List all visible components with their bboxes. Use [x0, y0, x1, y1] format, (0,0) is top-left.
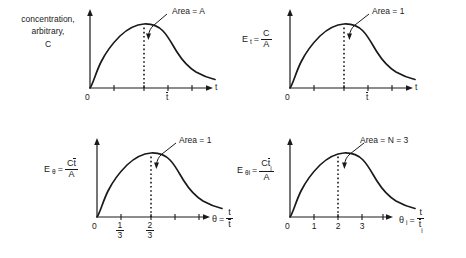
origin-label: 0 [285, 92, 290, 103]
equals-sign: = [254, 34, 259, 44]
x-axis-arrowhead [386, 214, 393, 220]
rtd-figure: concentration, arbitrary, C Area = A 0 t… [0, 0, 466, 258]
fraction-denominator: A [262, 172, 272, 182]
annotation-arrowhead [342, 162, 347, 169]
x-tick-label-2: 2 [333, 221, 343, 231]
chart-panel-etheta-i: Eθi = Cti A Area = N = 3 0 1 2 3 θi = t … [233, 129, 466, 258]
y-axis-caption-line-1: concentration, [10, 13, 86, 25]
equals-sign: = [219, 214, 224, 224]
mean-time-tick-label: t [166, 92, 168, 102]
chart-panel-etheta: Eθ = Ct A Area = 1 0 1 3 2 3 θ = t t [0, 129, 233, 258]
x-axis-label-theta-i: θi = t ti [399, 208, 425, 232]
y-axis-caption-line-2: arbitrary, [10, 25, 86, 37]
y-axis-label-etheta: Eθ = Ct A [44, 158, 78, 180]
x-axis-arrowhead [203, 214, 210, 220]
tick-denominator: 3 [116, 231, 124, 240]
chart-panel-concentration: concentration, arbitrary, C Area = A 0 t… [0, 0, 233, 129]
rtd-curve [97, 153, 222, 217]
area-annotation: Area = 1 [372, 6, 404, 16]
fraction: t ti [417, 208, 425, 232]
y-axis-symbol-subscript: θ [52, 168, 56, 175]
x-tick-label-3: 3 [357, 221, 367, 231]
chart-panel-et: Et = C A Area = 1 0 t t [233, 0, 466, 129]
x-axis-arrowhead [206, 85, 213, 91]
fraction-numerator: t [226, 208, 233, 219]
fraction-denominator: ti [417, 219, 425, 232]
panel-plot-area [233, 0, 466, 129]
y-axis-symbol-subscript: t [250, 38, 252, 45]
fraction-denominator: t [226, 219, 233, 230]
fraction: C A [261, 29, 272, 50]
y-axis-arrowhead [87, 9, 93, 16]
annotation-arrowhead [347, 33, 352, 40]
mean-time-tick-label-text: t [366, 92, 368, 102]
tick-denominator: 3 [146, 231, 154, 240]
x-axis-arrowhead [406, 85, 413, 91]
x-tick-label-1: 1 [309, 221, 319, 231]
y-axis-caption: concentration, arbitrary, C [10, 13, 86, 50]
fraction-numerator: C [261, 29, 272, 40]
y-axis-symbol: E [242, 34, 248, 44]
annotation-arrowhead [154, 162, 159, 169]
equals-sign: = [409, 215, 414, 225]
x-tick-label-two-thirds: 2 3 [146, 221, 154, 241]
area-annotation: Area = A [172, 6, 205, 16]
area-annotation: Area = 1 [179, 135, 211, 145]
fraction-denominator: A [261, 40, 271, 50]
x-axis-symbol-subscript: i [406, 219, 407, 226]
mean-time-tick-label: t [366, 92, 368, 102]
mean-time-tick-label-text: t [166, 92, 168, 102]
equals-sign: = [252, 165, 257, 175]
equals-sign: = [58, 164, 63, 174]
origin-label: 0 [285, 221, 290, 232]
fraction-numerator: Cti [259, 158, 273, 172]
fraction: t t [226, 208, 233, 230]
rtd-curve [90, 24, 215, 88]
y-axis-arrowhead [94, 138, 100, 145]
x-axis-symbol: θ [399, 215, 404, 225]
x-axis-label: t [215, 82, 217, 93]
x-axis-label-theta: θ = t t [212, 208, 233, 230]
y-axis-symbol-subscript: θi [245, 169, 250, 176]
numerator-subscript: i [270, 165, 271, 172]
annotation-arrowhead [146, 33, 151, 40]
y-axis-label-et: Et = C A [242, 29, 272, 50]
rtd-curve [290, 153, 415, 217]
y-axis-arrowhead [287, 9, 293, 16]
x-axis-label: t [415, 82, 417, 93]
y-axis-caption-line-3: C [10, 38, 86, 50]
y-axis-label-etheta-i: Eθi = Cti A [237, 158, 274, 182]
area-annotation: Area = N = 3 [360, 135, 408, 145]
fraction: Ct A [65, 158, 78, 180]
fraction-numerator: Ct [65, 158, 78, 170]
x-tick-label-one-third: 1 3 [116, 221, 124, 241]
y-axis-arrowhead [287, 138, 293, 145]
fraction-denominator: A [66, 170, 76, 180]
origin-label: 0 [85, 92, 90, 103]
origin-label: 0 [92, 221, 97, 232]
denominator-subscript: i [421, 227, 422, 234]
x-axis-symbol: θ [212, 214, 217, 224]
rtd-curve [290, 24, 415, 88]
fraction: Cti A [259, 158, 273, 182]
denominator-overbar-term: t [228, 219, 231, 229]
y-axis-symbol: E [44, 164, 50, 174]
fraction-numerator: t [417, 208, 424, 219]
y-axis-symbol: E [237, 165, 243, 175]
panel-plot-area [233, 129, 466, 258]
numerator-overbar-term: t [73, 158, 76, 168]
